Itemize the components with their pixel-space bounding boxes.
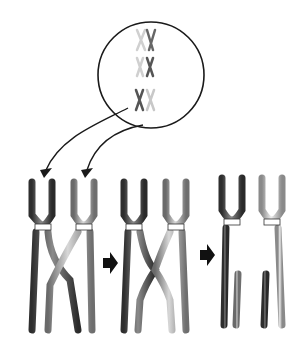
nucleus-zoom-circle xyxy=(98,22,204,128)
arrowhead-2 xyxy=(81,168,93,178)
stage-arrow-2 xyxy=(200,244,215,266)
stage-arrow-1 xyxy=(103,252,118,274)
recombined-light-chromosome xyxy=(262,178,282,220)
arrow-to-light-chromosome xyxy=(87,125,143,170)
arrowhead-1 xyxy=(40,168,52,178)
stage-synapsis xyxy=(32,182,94,330)
crossing-over-diagram xyxy=(0,0,304,351)
stage-exchange xyxy=(222,178,282,325)
stage-crossover xyxy=(124,182,186,330)
arrow-to-dark-chromosome xyxy=(46,108,128,170)
recombined-dark-chromosome xyxy=(222,178,242,220)
